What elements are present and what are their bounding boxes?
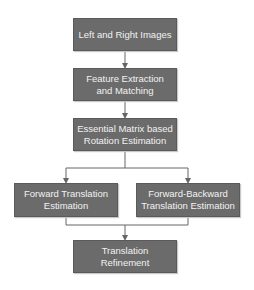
label-line2: Refinement xyxy=(101,257,150,268)
label-line2: Translation Estimation xyxy=(141,200,235,211)
node-label: Feature Extractionand Matching xyxy=(86,73,164,97)
node-rotation-estimation: Essential Matrix basedRotation Estimatio… xyxy=(73,118,177,151)
node-forward-backward-translation: Forward-BackwardTranslation Estimation xyxy=(136,183,240,217)
label-line2: Rotation Estimation xyxy=(84,135,166,146)
label-line1: Translation xyxy=(102,245,149,256)
label-line2: and Matching xyxy=(96,85,153,96)
node-label: TranslationRefinement xyxy=(101,245,150,269)
label-line2: Estimation xyxy=(44,200,88,211)
node-label: Forward TranslationEstimation xyxy=(24,188,108,212)
node-label: Left and Right Images xyxy=(79,29,172,41)
node-label: Forward-BackwardTranslation Estimation xyxy=(141,188,235,212)
label-line1: Feature Extraction xyxy=(86,73,164,84)
label-line1: Forward-Backward xyxy=(148,188,228,199)
node-translation-refinement: TranslationRefinement xyxy=(73,240,177,273)
node-forward-translation: Forward TranslationEstimation xyxy=(14,183,118,217)
label-line1: Forward Translation xyxy=(24,188,108,199)
node-feature-extraction: Feature Extractionand Matching xyxy=(73,68,177,101)
node-label: Essential Matrix basedRotation Estimatio… xyxy=(77,123,173,147)
label-line1: Essential Matrix based xyxy=(77,123,173,134)
node-left-right-images: Left and Right Images xyxy=(73,18,177,51)
